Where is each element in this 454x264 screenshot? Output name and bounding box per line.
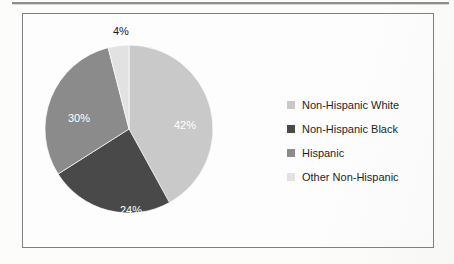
legend-item-non-hispanic-black: Non-Hispanic Black: [287, 118, 427, 140]
page-header-rule: [12, 2, 449, 4]
chart-legend: Non-Hispanic White Non-Hispanic Black Hi…: [287, 94, 427, 190]
legend-label-hispanic: Hispanic: [302, 147, 344, 160]
legend-label-non-hispanic-black: Non-Hispanic Black: [302, 123, 398, 136]
legend-item-hispanic: Hispanic: [287, 142, 427, 164]
legend-swatch-icon-non-hispanic-black: [287, 125, 295, 133]
legend-swatch-icon-non-hispanic-white: [287, 101, 295, 109]
legend-label-non-hispanic-white: Non-Hispanic White: [302, 99, 399, 112]
figure-frame: 42% 24% 30% 4% Non-Hispanic White Non-Hi…: [22, 13, 434, 248]
pie-slice-value-non-hispanic-white: 42%: [174, 119, 196, 131]
legend-item-non-hispanic-white: Non-Hispanic White: [287, 94, 427, 116]
pie-slice-value-hispanic: 30%: [68, 112, 90, 124]
legend-item-other-non-hispanic: Other Non-Hispanic: [287, 166, 427, 188]
pie-slice-value-other-non-hispanic: 4%: [113, 25, 129, 37]
legend-swatch-icon-hispanic: [287, 149, 295, 157]
page-canvas: 42% 24% 30% 4% Non-Hispanic White Non-Hi…: [0, 0, 454, 264]
legend-swatch-icon-other-non-hispanic: [287, 173, 295, 181]
pie-chart: 42% 24% 30% 4% Non-Hispanic White Non-Hi…: [23, 14, 433, 247]
legend-label-other-non-hispanic: Other Non-Hispanic: [302, 171, 399, 184]
pie-graphic: 42% 24% 30% 4%: [44, 44, 214, 214]
pie-slice-value-non-hispanic-black: 24%: [120, 204, 142, 216]
